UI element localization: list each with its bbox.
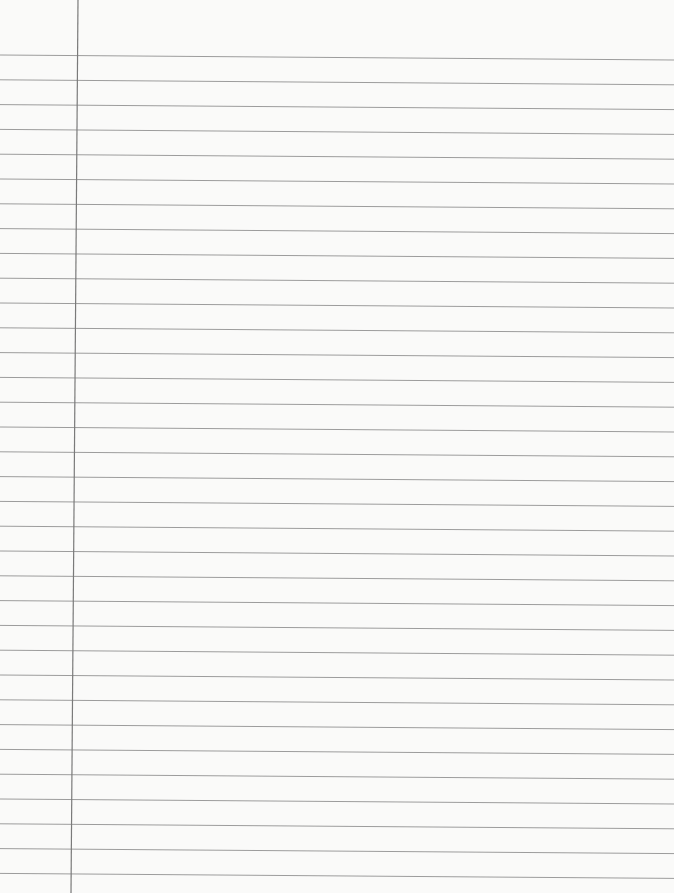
ruled-line xyxy=(0,477,674,482)
ruled-line xyxy=(0,774,674,779)
ruled-line xyxy=(0,749,674,754)
ruled-line xyxy=(0,105,674,110)
ruled-line xyxy=(0,625,674,630)
margin-line xyxy=(71,0,78,893)
ruling xyxy=(0,0,674,893)
ruled-line xyxy=(0,725,674,730)
ruled-line xyxy=(0,179,674,184)
ruled-line xyxy=(0,229,674,234)
ruled-line xyxy=(0,204,674,209)
ruled-line xyxy=(0,80,674,85)
ruled-line xyxy=(0,353,674,358)
ruled-line xyxy=(0,154,674,159)
ruled-line xyxy=(0,55,674,60)
notebook-page xyxy=(0,0,674,893)
ruled-line xyxy=(0,873,674,878)
ruled-line xyxy=(0,328,674,333)
ruled-line xyxy=(0,650,674,655)
ruled-line xyxy=(0,824,674,829)
ruled-line xyxy=(0,253,674,258)
ruled-line xyxy=(0,501,674,506)
ruled-line xyxy=(0,278,674,283)
ruled-line xyxy=(0,551,674,556)
ruled-line xyxy=(0,129,674,134)
ruled-line xyxy=(0,576,674,581)
ruled-line xyxy=(0,849,674,854)
ruled-line xyxy=(0,700,674,705)
ruled-line xyxy=(0,526,674,531)
ruled-line xyxy=(0,427,674,432)
ruled-line xyxy=(0,675,674,680)
ruled-line xyxy=(0,402,674,407)
ruled-line xyxy=(0,601,674,606)
ruled-line xyxy=(0,377,674,382)
ruled-line xyxy=(0,452,674,457)
ruled-line xyxy=(0,303,674,308)
ruled-line xyxy=(0,799,674,804)
